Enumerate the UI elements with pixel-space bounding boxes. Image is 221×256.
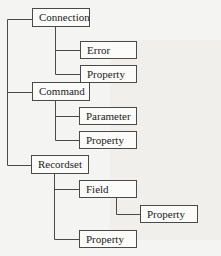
- node-connection-error: Error: [80, 41, 137, 59]
- node-label: Property: [87, 68, 125, 80]
- node-recordset-property: Property: [79, 230, 137, 248]
- node-label: Error: [87, 44, 110, 56]
- node-recordset-field: Field: [79, 180, 137, 198]
- node-label: Property: [147, 208, 185, 220]
- node-connection: Connection: [32, 8, 90, 27]
- node-recordset: Recordset: [31, 155, 89, 174]
- node-label: Connection: [39, 11, 90, 23]
- node-command-parameter: Parameter: [79, 107, 137, 125]
- node-field-property: Property: [140, 205, 198, 223]
- node-connection-property: Property: [80, 65, 137, 83]
- node-label: Parameter: [86, 110, 131, 122]
- node-label: Property: [86, 233, 124, 245]
- node-label: Recordset: [38, 158, 82, 170]
- node-label: Command: [39, 85, 85, 97]
- node-label: Property: [86, 134, 124, 146]
- node-command: Command: [32, 82, 90, 101]
- node-command-property: Property: [79, 131, 137, 149]
- node-label: Field: [86, 183, 109, 195]
